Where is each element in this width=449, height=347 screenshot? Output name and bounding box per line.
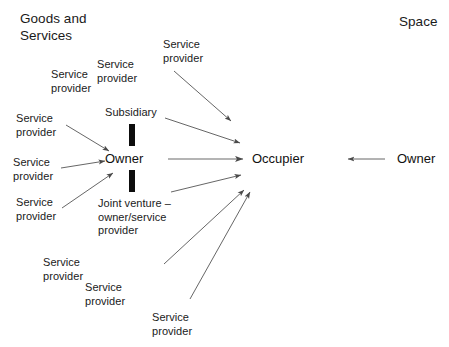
label-service-provider-bottom-left: Service provider xyxy=(43,256,83,283)
diagram-canvas: Goods and Services Space Owner Occupier … xyxy=(0,0,449,347)
label-service-provider-left-2: Service provider xyxy=(13,156,53,183)
heading-goods-and-services: Goods and Services xyxy=(20,11,87,44)
connector-layer xyxy=(0,0,449,347)
label-service-provider-left-1: Service provider xyxy=(16,112,56,139)
edge-sp-left-2-to-owner xyxy=(61,161,105,168)
label-service-provider-topright: Service provider xyxy=(163,38,203,65)
label-service-provider-bottom-mid: Service provider xyxy=(85,281,125,308)
edge-sp-bottom-mid-to-occupier xyxy=(164,190,244,264)
label-service-provider-bottom-right: Service provider xyxy=(152,311,192,338)
node-subsidiary[interactable]: Subsidiary xyxy=(105,106,157,120)
edge-sp-bottom-right-to-occupier xyxy=(190,192,250,299)
node-joint-venture[interactable]: Joint venture – owner/service provider xyxy=(98,197,171,238)
node-owner-right[interactable]: Owner xyxy=(397,151,435,166)
label-service-provider-upper-mid: Service provider xyxy=(97,58,137,85)
edge-jointventure-to-occupier xyxy=(171,175,241,192)
label-service-provider-upper-left: Service provider xyxy=(51,68,91,95)
heading-space: Space xyxy=(399,14,438,31)
subsidiary-link-bar xyxy=(129,124,135,146)
edge-sp-left-1-to-owner xyxy=(66,125,109,151)
edge-sp-topright-to-occupier xyxy=(174,71,231,121)
label-service-provider-left-3: Service provider xyxy=(16,196,56,223)
edge-subsidiary-to-occupier xyxy=(165,118,240,143)
jointventure-link-bar xyxy=(129,170,135,192)
node-occupier[interactable]: Occupier xyxy=(252,151,304,166)
node-owner-center[interactable]: Owner xyxy=(105,151,143,166)
